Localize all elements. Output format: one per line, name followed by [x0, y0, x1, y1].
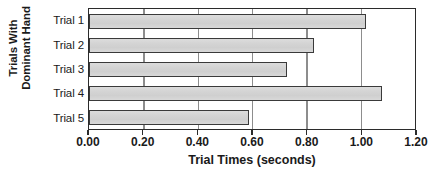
- x-axis-tick-label: 0.00: [76, 134, 99, 150]
- bar: [89, 86, 382, 101]
- bar: [89, 14, 366, 29]
- y-axis-tick-labels: Trial 1Trial 2Trial 3Trial 4Trial 5: [40, 8, 86, 130]
- y-axis-title: Trials With Dominant Hand: [0, 0, 40, 102]
- y-axis-title-line-1: Trials With: [7, 20, 21, 77]
- bar-slot: [89, 57, 415, 81]
- x-axis-tick-label: 0.80: [295, 134, 318, 150]
- bar-slot: [89, 105, 415, 129]
- x-axis-tick-label: 1.00: [350, 134, 373, 150]
- chart-title: [88, 0, 416, 1]
- x-axis-tick-labels: 0.000.200.400.600.801.001.20: [88, 134, 416, 150]
- x-axis-title: Trial Times (seconds): [88, 152, 416, 168]
- x-axis-tick-label: 0.20: [131, 134, 154, 150]
- bar-slot: [89, 9, 415, 33]
- y-axis-tick-label: Trial 1: [40, 8, 86, 32]
- x-axis-tick-label: 0.40: [186, 134, 209, 150]
- bar: [89, 38, 314, 53]
- bar-slot: [89, 81, 415, 105]
- x-axis-tick-label: 1.20: [404, 134, 427, 150]
- bar-slot: [89, 33, 415, 57]
- bar: [89, 110, 249, 125]
- bar-chart: Trials With Dominant Hand Trial 1Trial 2…: [0, 0, 433, 174]
- bars-layer: [89, 9, 415, 129]
- y-axis-tick-label: Trial 3: [40, 57, 86, 81]
- y-axis-tick-label: Trial 5: [40, 106, 86, 130]
- y-axis-title-line-2: Dominant Hand: [20, 6, 34, 90]
- plot-area: [88, 8, 416, 130]
- x-axis-tick-label: 0.60: [240, 134, 263, 150]
- y-axis-tick-label: Trial 4: [40, 81, 86, 105]
- y-axis-tick-label: Trial 2: [40, 32, 86, 56]
- bar: [89, 62, 287, 77]
